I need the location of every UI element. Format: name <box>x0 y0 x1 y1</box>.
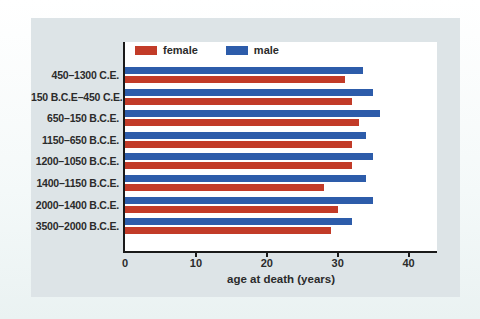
category-label: 650–150 B.C.E. <box>31 112 125 124</box>
bar-track <box>125 132 437 148</box>
category-label: 150 B.C.E–450 C.E. <box>31 91 125 103</box>
chart-row: 1150–650 B.C.E. <box>31 132 437 148</box>
bar-track <box>125 218 437 234</box>
x-tick-label: 40 <box>396 257 422 269</box>
female-bar <box>125 227 331 234</box>
legend-swatch-female <box>135 46 157 55</box>
bar-track <box>125 175 437 191</box>
figure: female male 450–1300 C.E.150 B.C.E–450 C… <box>0 0 480 319</box>
bar-track <box>125 67 437 83</box>
male-bar <box>125 175 366 182</box>
x-tick-label: 20 <box>254 257 280 269</box>
category-label: 3500–2000 B.C.E. <box>31 220 125 232</box>
legend-swatch-male <box>226 46 248 55</box>
female-bar <box>125 98 352 105</box>
female-bar <box>125 184 324 191</box>
chart-row: 2000–1400 B.C.E. <box>31 197 437 213</box>
male-bar <box>125 153 373 160</box>
chart-row: 1200–1050 B.C.E. <box>31 153 437 169</box>
male-bar <box>125 132 366 139</box>
x-tick-label: 10 <box>183 257 209 269</box>
male-bar <box>125 89 373 96</box>
female-bar <box>125 76 345 83</box>
male-bar <box>125 110 380 117</box>
bar-track <box>125 110 437 126</box>
female-bar <box>125 162 352 169</box>
category-label: 2000–1400 B.C.E. <box>31 199 125 211</box>
female-bar <box>125 206 338 213</box>
x-axis-title: age at death (years) <box>125 273 437 285</box>
female-bar <box>125 141 352 148</box>
chart-row: 1400–1150 B.C.E. <box>31 175 437 191</box>
chart-row: 650–150 B.C.E. <box>31 110 437 126</box>
bar-track <box>125 197 437 213</box>
legend-label-male: male <box>254 44 279 56</box>
category-label: 1400–1150 B.C.E. <box>31 177 125 189</box>
legend: female male <box>135 44 301 56</box>
x-tick-label: 0 <box>112 257 138 269</box>
male-bar <box>125 218 352 225</box>
category-label: 1200–1050 B.C.E. <box>31 155 125 167</box>
female-bar <box>125 119 359 126</box>
chart-row: 3500–2000 B.C.E. <box>31 218 437 234</box>
chart-row: 450–1300 C.E. <box>31 67 437 83</box>
legend-label-female: female <box>163 44 198 56</box>
category-label: 450–1300 C.E. <box>31 69 125 81</box>
chart-row: 150 B.C.E–450 C.E. <box>31 89 437 105</box>
x-tick-label: 30 <box>325 257 351 269</box>
chart-panel: female male 450–1300 C.E.150 B.C.E–450 C… <box>31 18 460 297</box>
bar-track <box>125 89 437 105</box>
category-label: 1150–650 B.C.E. <box>31 134 125 146</box>
male-bar <box>125 197 373 204</box>
bar-track <box>125 153 437 169</box>
male-bar <box>125 67 363 74</box>
